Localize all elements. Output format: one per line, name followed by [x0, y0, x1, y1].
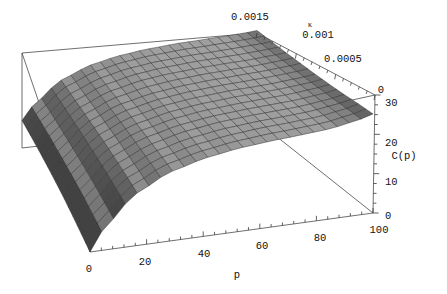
plot-canvas: 0.0015 0.001 0.0005 0 κ 30 20 10 0 C(p) … — [0, 0, 447, 294]
kappa-tick-3: 0 — [378, 84, 384, 96]
box-edge-p-axis — [90, 213, 373, 252]
kappa-tick-2: 0.0005 — [324, 53, 362, 65]
kappa-tick-minor — [311, 62, 312, 65]
p-tick-100: 100 — [370, 224, 389, 236]
kappa-tick-major — [335, 74, 336, 79]
kappa-tick-minor — [303, 58, 304, 61]
p-tick-60: 60 — [256, 240, 269, 252]
p-tick-80: 80 — [314, 232, 327, 244]
kappa-tick-minor — [280, 45, 281, 48]
kappa-tick-minor — [343, 78, 344, 81]
surface-mesh — [22, 31, 373, 252]
kappa-tick-0: 0.0015 — [231, 11, 269, 23]
p-axis-title: p — [234, 269, 240, 281]
p-tick-labels: 0 20 40 60 80 100 p — [86, 224, 389, 281]
kappa-tick-minor — [288, 50, 289, 53]
cp-tick-labels: 30 20 10 0 C(p) — [385, 97, 417, 222]
kappa-tick-minor — [319, 66, 320, 69]
cp-axis-title: C(p) — [391, 150, 416, 162]
cp-tick-0: 0 — [385, 210, 391, 222]
p-tick-20: 20 — [139, 256, 152, 268]
kappa-tick-minor — [366, 91, 367, 94]
kappa-tick-minor — [358, 87, 359, 90]
cp-tick-10: 10 — [385, 176, 398, 188]
kappa-tick-minor — [350, 83, 351, 86]
kappa-tick-1: 0.001 — [302, 29, 334, 41]
cp-tick-20: 20 — [385, 137, 398, 149]
p-tick-0: 0 — [86, 263, 92, 275]
kappa-tick-minor — [327, 70, 328, 73]
cp-tick-30: 30 — [385, 97, 398, 109]
p-tick-40: 40 — [198, 248, 211, 260]
surface-plot-figure: 0.0015 0.001 0.0005 0 κ 30 20 10 0 C(p) … — [0, 0, 447, 294]
kappa-axis-title: κ — [308, 20, 312, 29]
kappa-tick-major — [295, 54, 296, 59]
